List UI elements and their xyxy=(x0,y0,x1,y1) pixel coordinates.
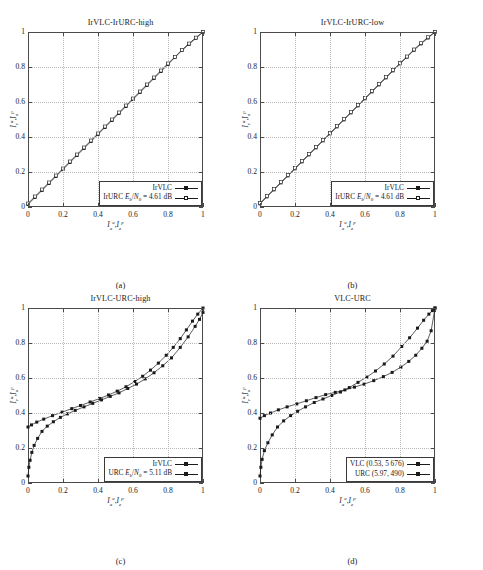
axis-tick xyxy=(431,67,435,68)
axis-tick xyxy=(431,32,435,33)
axis-tick xyxy=(365,308,366,312)
axis-tick xyxy=(28,102,32,103)
data-point-marker xyxy=(153,76,156,79)
axis-tick xyxy=(199,448,203,449)
axis-tick xyxy=(199,343,203,344)
legend-label: IrURC Eb/N0 = 4.61 dB xyxy=(103,192,175,204)
data-point-marker xyxy=(29,459,32,462)
axis-tick xyxy=(431,448,435,449)
data-point-marker xyxy=(48,181,51,184)
y-tick-label: 1 xyxy=(233,27,257,36)
axis-tick xyxy=(199,32,203,33)
y-tick-label: 0.8 xyxy=(233,338,257,347)
data-point-marker xyxy=(30,423,33,426)
panel-c-xaxis-label: Iau,Iep xyxy=(28,496,203,507)
axis-tick xyxy=(260,172,264,173)
data-point-marker xyxy=(195,36,198,39)
axis-tick xyxy=(28,378,32,379)
data-point-marker xyxy=(83,405,86,408)
axis-tick xyxy=(28,413,32,414)
axis-tick xyxy=(63,32,64,36)
data-point-marker xyxy=(188,42,191,45)
axis-tick xyxy=(28,343,32,344)
data-point-marker xyxy=(407,360,410,363)
x-tick-label: 0.4 xyxy=(318,483,342,495)
data-point-marker xyxy=(74,409,77,412)
data-point-marker xyxy=(170,356,173,359)
data-point-marker xyxy=(304,405,307,408)
y-tick-label: 0.2 xyxy=(233,443,257,452)
data-point-marker xyxy=(313,401,316,404)
panel-a-legend: IrVLCIrURC Eb/N0 = 4.61 dB xyxy=(99,181,202,206)
data-point-marker xyxy=(116,390,119,393)
data-point-marker xyxy=(51,414,54,417)
axis-tick xyxy=(330,308,331,312)
legend-label: VLC (0.53, 5 676) xyxy=(350,459,407,470)
legend-marker-sample xyxy=(175,461,198,469)
data-point-marker xyxy=(322,139,325,142)
data-point-marker xyxy=(194,325,197,328)
x-tick-label: 1 xyxy=(191,207,215,219)
series-line xyxy=(260,308,435,418)
axis-tick xyxy=(199,67,203,68)
x-tick-label: 0.4 xyxy=(86,207,110,219)
y-tick-label: 1 xyxy=(233,303,257,312)
data-point-marker xyxy=(111,118,114,121)
axis-tick xyxy=(431,102,435,103)
data-point-marker xyxy=(383,363,386,366)
axis-tick xyxy=(168,308,169,312)
y-tick-label: 0.4 xyxy=(233,408,257,417)
y-tick-label: 0 xyxy=(1,478,25,487)
data-point-marker xyxy=(392,355,395,358)
y-tick-label: 0.8 xyxy=(233,62,257,71)
data-point-marker xyxy=(125,104,128,107)
data-point-marker xyxy=(174,55,177,58)
gridline-horizontal xyxy=(260,413,435,414)
data-point-marker xyxy=(406,55,409,58)
data-point-marker xyxy=(160,69,163,72)
axis-tick xyxy=(133,32,134,36)
panel-a: IrVLC-IrURC-high Iau,Iep Ieu,Iap IrVLCIr… xyxy=(8,14,233,292)
axis-tick xyxy=(199,172,203,173)
axis-tick xyxy=(435,308,436,312)
legend-entry: URC (5.97, 490) xyxy=(350,470,430,480)
data-point-marker xyxy=(191,320,194,323)
data-point-marker xyxy=(91,402,94,405)
legend-marker-sample xyxy=(175,195,198,203)
data-point-marker xyxy=(89,400,92,403)
panel-a-plot-area: Iau,Iep Ieu,Iap IrVLCIrURC Eb/N0 = 4.61 … xyxy=(28,32,203,207)
data-point-marker xyxy=(161,364,164,367)
axis-tick xyxy=(63,308,64,312)
y-tick-label: 0 xyxy=(1,202,25,211)
gridline-horizontal xyxy=(28,102,203,103)
gridline-horizontal xyxy=(28,67,203,68)
data-point-marker xyxy=(27,475,30,478)
x-tick-label: 0.6 xyxy=(121,483,145,495)
data-point-marker xyxy=(301,160,304,163)
data-point-marker xyxy=(374,370,377,373)
data-point-marker xyxy=(263,414,266,417)
gridline-vertical xyxy=(295,308,296,483)
gridline-horizontal xyxy=(28,137,203,138)
data-point-marker xyxy=(139,90,142,93)
axis-tick xyxy=(28,32,32,33)
axis-tick xyxy=(295,32,296,36)
axis-tick xyxy=(28,67,32,68)
axis-tick xyxy=(431,172,435,173)
data-point-marker xyxy=(276,426,279,429)
axis-tick xyxy=(28,308,32,309)
legend-marker-sample xyxy=(407,471,430,479)
legend-label: URC Eb/N0 = 5.11 dB xyxy=(108,468,175,480)
panel-b-plot-area: Iau,Iep Ieu,Iap IrVLCIrURC Eb/N0 = 4.61 … xyxy=(260,32,435,207)
axis-tick xyxy=(203,32,204,36)
panel-c-caption: (c) xyxy=(8,556,233,566)
series-line xyxy=(260,308,435,476)
legend-entry: URC Eb/N0 = 5.11 dB xyxy=(108,470,198,480)
x-tick-label: 1 xyxy=(423,483,447,495)
gridline-horizontal xyxy=(28,343,203,344)
gridline-horizontal xyxy=(28,413,203,414)
y-tick-label: 0.4 xyxy=(233,132,257,141)
y-tick-label: 0.4 xyxy=(1,408,25,417)
y-tick-label: 0 xyxy=(233,202,257,211)
panel-d-legend: VLC (0.53, 5 676)URC (5.97, 490) xyxy=(346,457,434,482)
